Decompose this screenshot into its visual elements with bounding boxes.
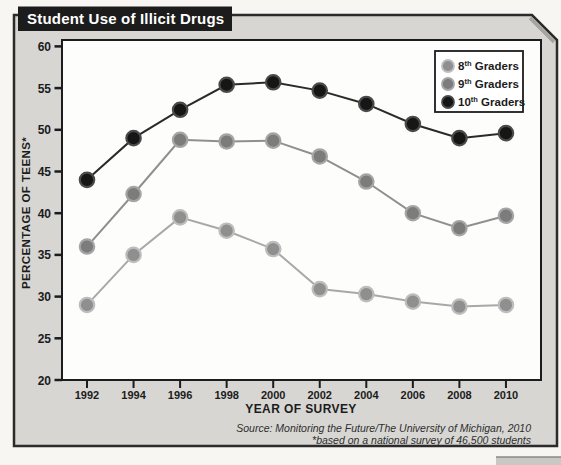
data-point-marker [452,299,466,313]
data-point-marker [359,97,373,111]
data-point-marker [406,294,420,308]
legend-label: 10th Graders [458,95,525,108]
data-point-marker [499,298,513,312]
legend-marker [442,96,454,108]
y-tick-label: 25 [38,332,52,346]
data-point-marker [266,242,280,256]
data-point-marker [499,126,513,140]
y-axis-title: PERCENTAGE OF TEENS* [20,137,32,289]
data-point-marker [266,133,280,147]
page-corner-strip [496,457,561,465]
x-tick-label: 1996 [168,389,192,401]
data-point-marker [219,134,233,148]
y-tick-label: 45 [38,165,52,179]
data-point-marker [126,248,140,262]
data-point-marker [126,187,140,201]
data-point-marker [313,282,327,296]
legend-marker [442,60,454,72]
y-tick-label: 55 [38,82,52,96]
x-tick-label: 2010 [494,389,518,401]
data-point-marker [452,131,466,145]
data-point-marker [359,287,373,301]
y-tick-label: 50 [38,123,52,137]
x-axis-title: YEAR OF SURVEY [245,402,356,416]
data-point-marker [173,210,187,224]
x-tick-label: 2006 [401,389,425,401]
data-point-marker [80,298,94,312]
data-point-marker [452,221,466,235]
illicit-drugs-chart: Student Use of Illicit Drugs 60555045403… [0,0,561,465]
data-point-marker [313,83,327,97]
y-tick-label: 40 [38,207,52,221]
data-point-marker [406,117,420,131]
source-line-1: Source: Monitoring the Future/The Univer… [236,422,531,434]
source-line-2: *based on a national survey of 46,500 st… [312,434,532,446]
data-point-marker [173,103,187,117]
y-tick-label: 60 [38,40,52,54]
x-tick-label: 2008 [447,389,471,401]
data-point-marker [499,209,513,223]
x-tick-label: 1994 [121,389,146,401]
data-point-marker [266,75,280,89]
data-point-marker [80,173,94,187]
data-point-marker [219,78,233,92]
legend-items: 8th Graders9th Graders10th Graders [442,59,525,108]
x-tick-label: 2004 [354,389,379,401]
data-point-marker [406,206,420,220]
data-point-marker [313,149,327,163]
x-tick-label: 2000 [261,389,285,401]
y-tick-label: 35 [38,248,52,262]
data-point-marker [219,224,233,238]
page-title: Student Use of Illicit Drugs [27,10,224,27]
legend-marker [442,78,454,90]
y-tick-label: 30 [38,290,52,304]
data-point-marker [126,131,140,145]
x-tick-label: 1998 [214,389,238,401]
y-tick-label: 20 [38,374,52,388]
x-tick-label: 2002 [308,389,332,401]
data-point-marker [80,239,94,253]
data-point-marker [173,133,187,147]
data-point-marker [359,174,373,188]
x-tick-label: 1992 [75,389,99,401]
